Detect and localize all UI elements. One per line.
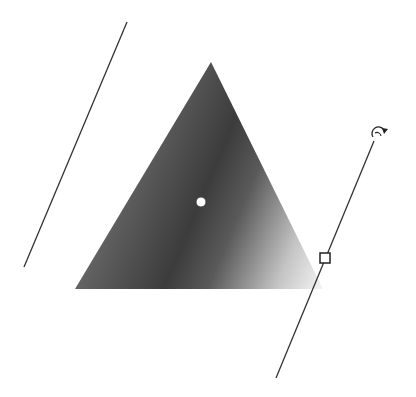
gradient-width-handle[interactable]	[320, 253, 330, 263]
gradient-center-handle[interactable]	[196, 197, 206, 207]
gradient-editor-canvas[interactable]	[0, 0, 416, 397]
